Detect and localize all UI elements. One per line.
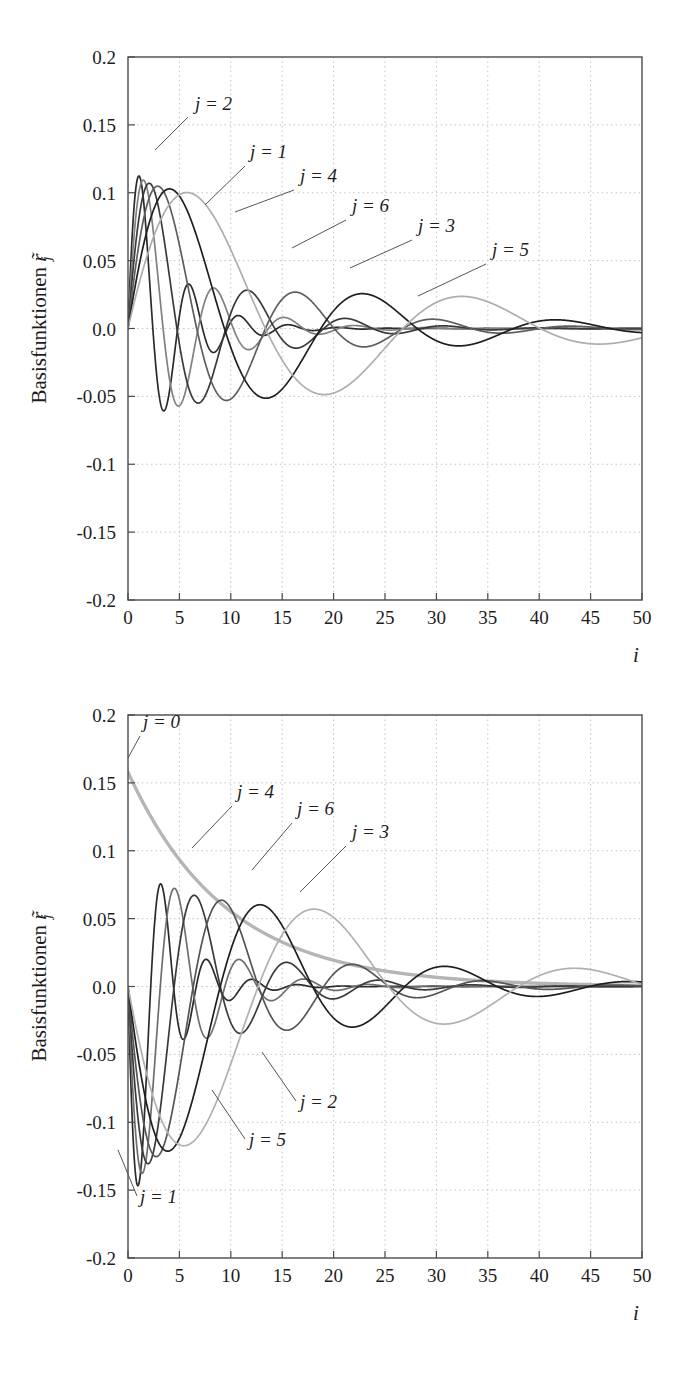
curve-annotation-label: j = 3 [415, 215, 455, 236]
annotation-leader-line [212, 1090, 245, 1139]
y-tick-label: 0.1 [92, 183, 116, 204]
series-curve-j0 [128, 772, 642, 985]
curve-annotation-label: j = 1 [137, 1186, 177, 1207]
figure-root: 051015202530354045500.20.150.10.050.0-0.… [0, 0, 686, 1383]
curve-annotation-label: j = 2 [192, 93, 233, 114]
x-tick-label: 25 [376, 1265, 395, 1286]
curve-annotation-label: j = 3 [349, 821, 389, 842]
chart-panel-top: 051015202530354045500.20.150.10.050.0-0.… [0, 0, 686, 680]
curve-annotation-label: j = 0 [140, 711, 181, 732]
curve-annotation-label: j = 5 [489, 239, 529, 260]
annotation-leader-line [128, 736, 140, 758]
series-curve-j5 [128, 189, 642, 398]
y-axis-label: Basisfunktionen r̃j [27, 252, 54, 404]
y-tick-label: -0.1 [86, 1112, 116, 1133]
x-tick-label: 20 [324, 1265, 343, 1286]
x-tick-label: 10 [221, 1265, 240, 1286]
y-tick-label: -0.15 [76, 522, 116, 543]
chart-svg-top: 051015202530354045500.20.150.10.050.0-0.… [0, 0, 686, 680]
chart-svg-bottom: 051015202530354045500.20.150.10.050.0-0.… [0, 680, 686, 1383]
curve-annotation-label: j = 6 [294, 798, 335, 819]
y-axis-label-text: Basisfunktionen r̃j [27, 910, 54, 1062]
x-tick-label: 40 [530, 607, 549, 628]
x-tick-label: 10 [221, 607, 240, 628]
y-tick-label: 0.2 [92, 47, 116, 68]
x-axis-label: i [633, 643, 639, 667]
x-tick-label: 50 [633, 1265, 652, 1286]
y-tick-label: 0.15 [83, 773, 116, 794]
x-tick-label: 5 [175, 607, 185, 628]
y-tick-label: 0.0 [92, 977, 116, 998]
annotation-leader-line [205, 166, 245, 205]
curve-annotation-label: j = 4 [297, 165, 338, 186]
y-tick-label: 0.2 [92, 705, 116, 726]
y-tick-label: -0.05 [76, 386, 116, 407]
annotation-leader-line [192, 806, 232, 848]
y-tick-label: 0.05 [83, 251, 116, 272]
x-tick-label: 45 [581, 1265, 600, 1286]
y-axis-label-text: Basisfunktionen r̃j [27, 252, 54, 404]
annotation-leader-line [292, 220, 346, 248]
chart-panel-bottom: 051015202530354045500.20.150.10.050.0-0.… [0, 680, 686, 1383]
x-tick-label: 5 [175, 1265, 185, 1286]
annotation-leader-line [350, 240, 412, 268]
curve-annotations: j = 2j = 1j = 4j = 6j = 3j = 5 [155, 93, 529, 296]
curve-annotations: j = 0j = 4j = 6j = 3j = 2j = 5j = 1 [118, 711, 389, 1207]
annotation-leader-line [418, 264, 486, 296]
x-tick-label: 45 [581, 607, 600, 628]
x-tick-label: 20 [324, 607, 343, 628]
curve-annotation-label: j = 2 [297, 1091, 338, 1112]
y-tick-label: 0.15 [83, 115, 116, 136]
x-tick-label: 50 [633, 607, 652, 628]
y-axis-label: Basisfunktionen r̃j [27, 910, 54, 1062]
y-tick-label: 0.0 [92, 319, 116, 340]
y-tick-label: -0.1 [86, 454, 116, 475]
x-tick-label: 0 [123, 607, 133, 628]
x-tick-label: 15 [273, 1265, 292, 1286]
annotation-leader-line [155, 117, 188, 150]
curve-annotation-label: j = 5 [246, 1129, 286, 1150]
y-tick-label: -0.2 [86, 590, 116, 611]
series-curve-j6 [128, 909, 642, 1146]
x-tick-label: 0 [123, 1265, 133, 1286]
curve-annotation-label: j = 4 [234, 781, 275, 802]
y-tick-label: -0.05 [76, 1044, 116, 1065]
x-tick-label: 35 [478, 607, 497, 628]
x-tick-label: 35 [478, 1265, 497, 1286]
x-tick-label: 30 [427, 1265, 446, 1286]
annotation-leader-line [300, 846, 346, 892]
annotation-leader-line [235, 190, 294, 212]
x-tick-label: 15 [273, 607, 292, 628]
axis-ticks: 051015202530354045500.20.150.10.050.0-0.… [76, 47, 651, 628]
y-tick-label: 0.1 [92, 841, 116, 862]
y-tick-label: -0.2 [86, 1248, 116, 1269]
x-tick-label: 40 [530, 1265, 549, 1286]
y-tick-label: 0.05 [83, 909, 116, 930]
curve-annotation-label: j = 6 [349, 195, 390, 216]
curve-annotation-label: j = 1 [247, 141, 287, 162]
x-axis-label: i [633, 1301, 639, 1325]
x-tick-label: 30 [427, 607, 446, 628]
x-tick-label: 25 [376, 607, 395, 628]
annotation-leader-line [252, 823, 292, 870]
series-curve-j3 [128, 895, 642, 1163]
annotation-leader-line [262, 1052, 296, 1101]
y-tick-label: -0.15 [76, 1180, 116, 1201]
